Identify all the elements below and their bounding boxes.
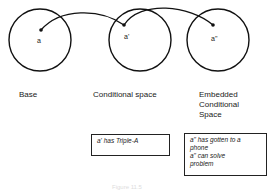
- point-label-a-prime: a': [124, 33, 129, 40]
- embedded-space-circle: [187, 9, 249, 71]
- conditional-label: Conditional space: [93, 90, 157, 100]
- conditional-space-box: a' has Triple-A: [91, 134, 170, 156]
- embedded-box-line3: a" can solve: [190, 152, 261, 160]
- point-label-a-double-prime: a": [211, 35, 217, 42]
- embedded-box-line4: problem: [190, 160, 261, 168]
- conditional-box-text: a' has Triple-A: [97, 137, 138, 144]
- point-a-prime: [122, 23, 126, 27]
- conditional-space-circle: [109, 9, 171, 71]
- point-label-a: a: [37, 37, 41, 44]
- point-a-double-prime: [211, 23, 215, 27]
- figure-caption: Figure 11.5: [112, 184, 142, 190]
- embedded-label: Embedded Conditional Space: [199, 90, 239, 120]
- embedded-space-box: a" has gotten to a phone a" can solve pr…: [184, 133, 267, 176]
- embedded-box-line2: phone: [190, 144, 261, 152]
- link-conditional-to-embedded: [124, 8, 213, 25]
- embedded-box-line1: a" has gotten to a: [190, 136, 261, 144]
- point-a: [39, 28, 43, 32]
- base-label: Base: [19, 90, 37, 100]
